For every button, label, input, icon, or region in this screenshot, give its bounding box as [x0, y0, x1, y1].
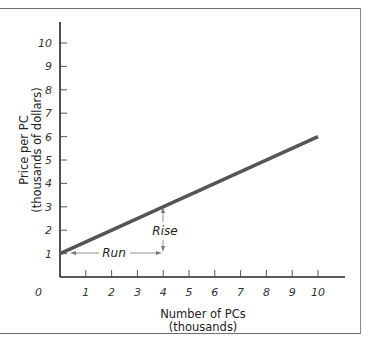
- y-tick-label: 9: [45, 60, 52, 73]
- y-tick-label: 7: [45, 107, 52, 120]
- origin-label: 0: [35, 286, 42, 299]
- x-tick-label: 5: [186, 286, 193, 299]
- rise-label: Rise: [152, 224, 177, 238]
- y-axis-label-line1: Price per PC: [17, 115, 31, 184]
- chart: 12345678910 12345678910 0 Price per PC (…: [0, 0, 375, 346]
- x-tick-label: 7: [237, 286, 244, 299]
- y-tick-label: 8: [45, 84, 52, 97]
- y-axis-label-line2: (thousands of dollars): [30, 87, 44, 213]
- y-tick-label: 1: [45, 248, 52, 261]
- y-tick-label: 6: [45, 131, 52, 144]
- run-annotation: Run: [70, 246, 162, 260]
- rise-annotation: Rise: [152, 207, 177, 252]
- y-tick-label: 5: [45, 154, 52, 167]
- x-tick-label: 10: [311, 286, 325, 299]
- x-axis-label-line2: (thousands): [169, 320, 238, 334]
- x-tick-label: 4: [160, 286, 167, 299]
- y-tick-label: 4: [45, 177, 52, 190]
- x-ticks: 12345678910: [82, 270, 325, 299]
- x-tick-label: 8: [263, 286, 270, 299]
- x-tick-label: 6: [211, 286, 218, 299]
- y-tick-label: 2: [45, 224, 52, 237]
- y-tick-label: 10: [38, 37, 52, 50]
- y-tick-label: 3: [45, 201, 52, 214]
- x-tick-label: 3: [134, 286, 141, 299]
- x-tick-label: 2: [108, 286, 115, 299]
- run-label: Run: [102, 246, 126, 260]
- x-axis-label-line1: Number of PCs: [160, 307, 246, 321]
- x-tick-label: 9: [289, 286, 296, 299]
- price-line: [60, 137, 318, 254]
- x-tick-label: 1: [82, 286, 89, 299]
